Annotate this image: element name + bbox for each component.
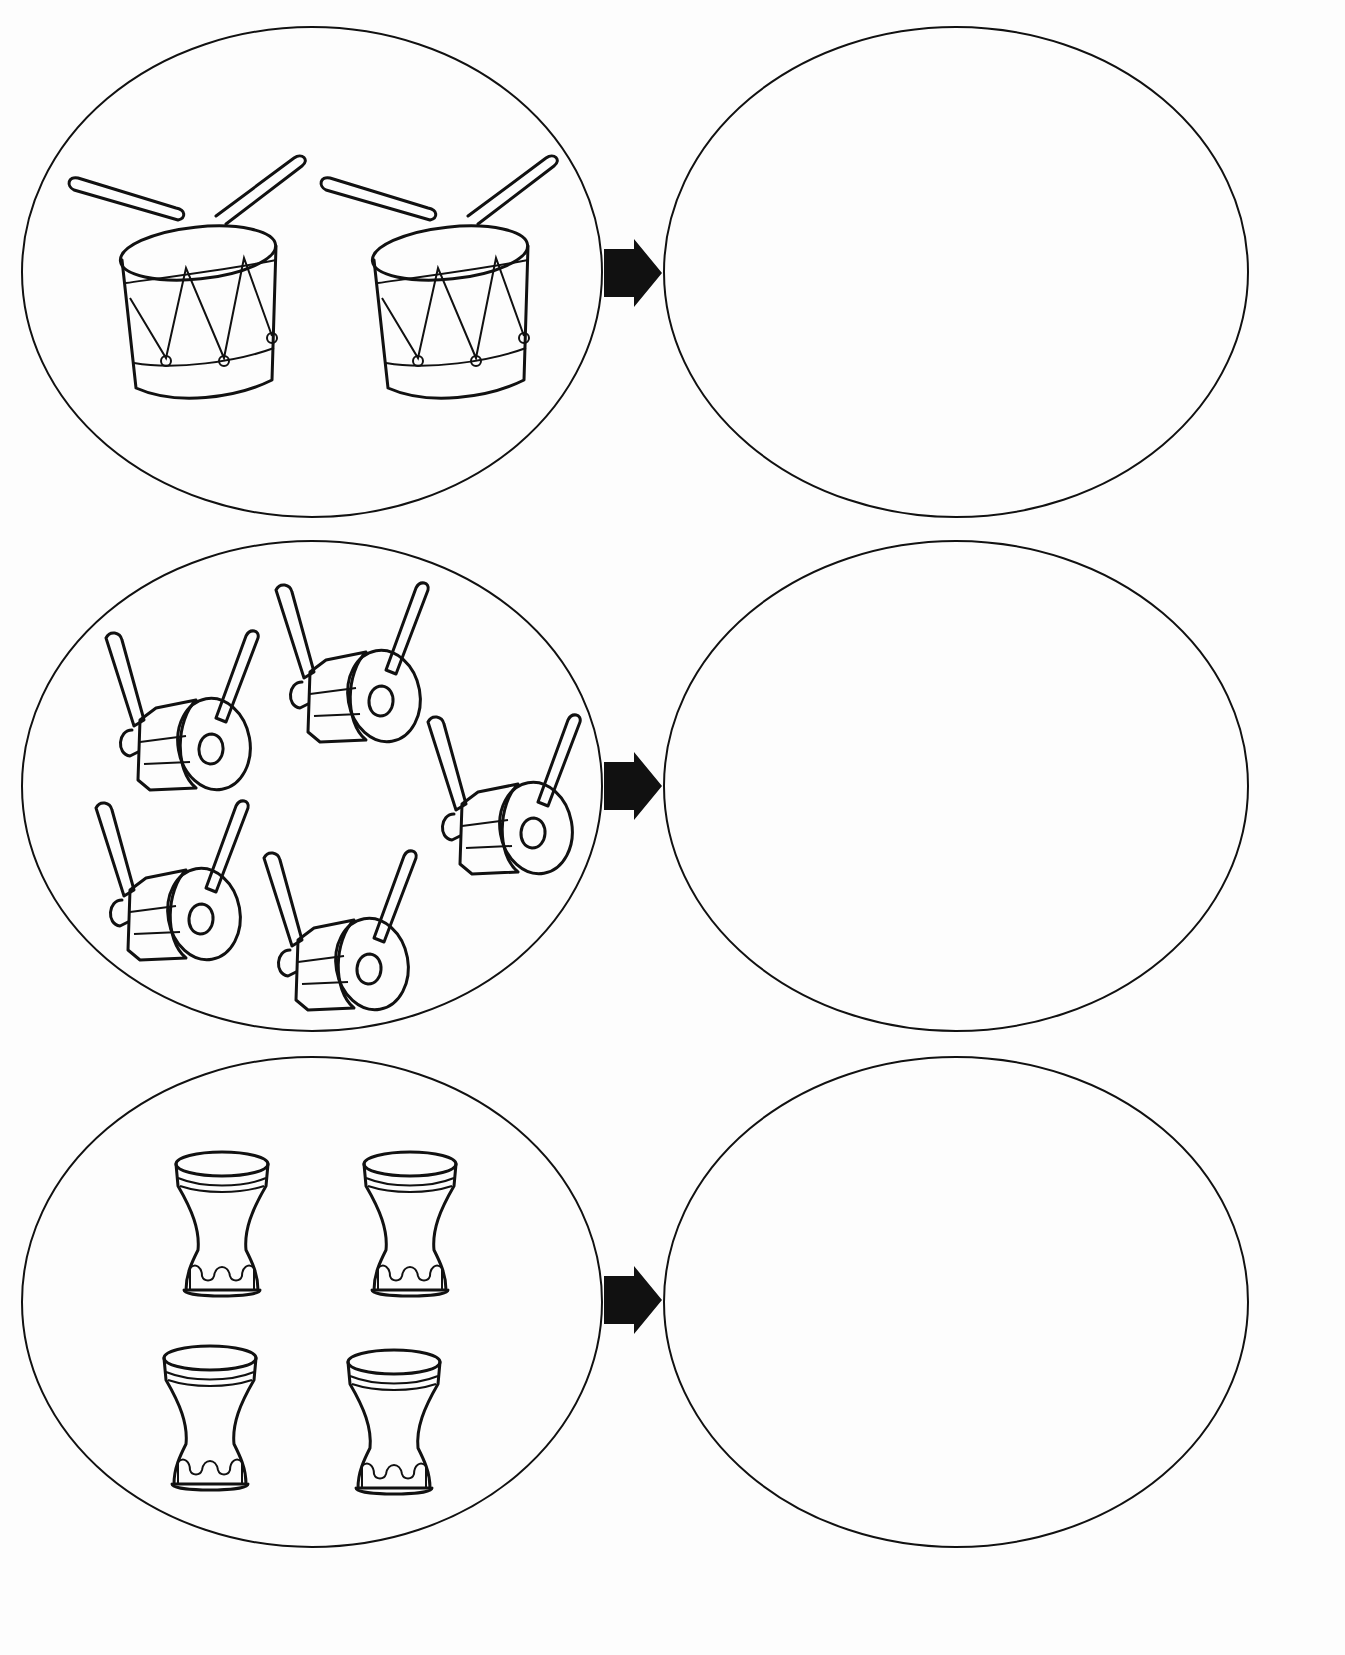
darbuka-drum-icon xyxy=(164,1346,256,1490)
right-arrow-icon xyxy=(604,752,662,820)
answer-oval-row-1[interactable] xyxy=(664,27,1248,517)
right-arrow-icon xyxy=(604,1266,662,1334)
question-oval-row-3 xyxy=(22,1057,602,1547)
side-drum-icon xyxy=(264,851,416,1016)
worksheet-page xyxy=(0,0,1345,1655)
answer-oval-row-2[interactable] xyxy=(664,541,1248,1031)
side-drum-icon xyxy=(96,801,248,966)
side-drum-icon xyxy=(276,583,428,748)
snare-drum-icon xyxy=(69,156,305,398)
darbuka-drum-icon xyxy=(348,1350,440,1494)
answer-oval-row-3[interactable] xyxy=(664,1057,1248,1547)
darbuka-drum-icon xyxy=(364,1152,456,1296)
right-arrow-icon xyxy=(604,239,662,307)
side-drum-icon xyxy=(428,715,580,880)
snare-drum-icon xyxy=(321,156,557,398)
question-oval-row-1 xyxy=(22,27,602,517)
side-drum-icon xyxy=(106,631,258,796)
darbuka-drum-icon xyxy=(176,1152,268,1296)
